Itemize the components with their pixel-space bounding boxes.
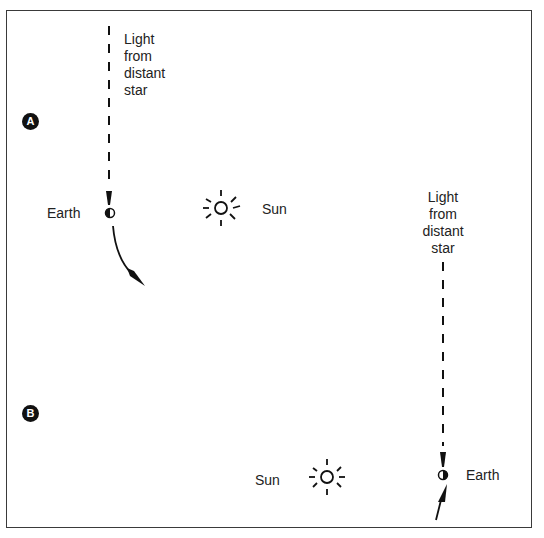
panel-b-badge: B (22, 405, 39, 422)
panel-a-sun-icon (203, 190, 240, 226)
panel-b-sun-icon (309, 459, 345, 495)
panel-b-earth-icon (439, 471, 448, 480)
panel-a-starlight-ray (106, 26, 112, 205)
panel-b-orbit-arrow (436, 484, 447, 520)
panel-b-earth-label: Earth (466, 467, 499, 484)
panel-a-sun-label: Sun (262, 201, 287, 218)
panel-a-earth-label: Earth (47, 205, 80, 222)
panel-a-badge: A (22, 113, 39, 130)
panel-b-sun-label: Sun (255, 472, 280, 489)
panel-a-light-label: Light from distant star (124, 31, 165, 99)
panel-a-earth-icon (106, 209, 115, 218)
panel-a-orbit-arrow (113, 226, 145, 286)
diagram-artwork (0, 0, 544, 538)
panel-b-light-label: Light from distant star (422, 189, 464, 257)
panel-b-starlight-ray (440, 262, 446, 467)
